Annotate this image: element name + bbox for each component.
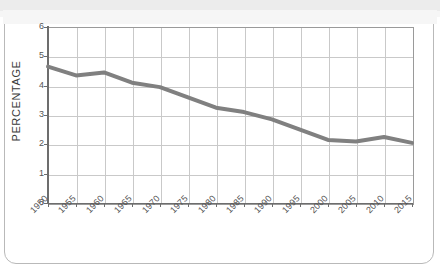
y-tick-mark xyxy=(44,86,48,87)
x-tick-mark xyxy=(188,203,189,207)
x-tick-mark xyxy=(76,203,77,207)
y-tick-mark xyxy=(44,115,48,116)
x-tick-mark xyxy=(244,203,245,207)
y-tick-label: 1 xyxy=(30,169,44,178)
y-tick-mark xyxy=(44,56,48,57)
x-tick-mark xyxy=(356,203,357,207)
y-tick-mark xyxy=(44,27,48,28)
x-tick-mark xyxy=(104,203,105,207)
y-tick-mark xyxy=(44,144,48,145)
y-tick-label: 6 xyxy=(30,22,44,31)
x-tick-mark xyxy=(384,203,385,207)
chart-screenshot: PERCENTAGE 0123456 195019551960196519701… xyxy=(0,0,440,272)
y-tick-label: 3 xyxy=(30,110,44,119)
x-tick-mark xyxy=(412,203,413,207)
y-axis-ticks: 0123456 xyxy=(28,0,44,272)
y-tick-label: 4 xyxy=(30,81,44,90)
y-tick-label: 2 xyxy=(30,139,44,148)
y-tick-mark xyxy=(44,174,48,175)
x-tick-mark xyxy=(160,203,161,207)
y-axis-title: PERCENTAGE xyxy=(10,41,22,161)
x-tick-mark xyxy=(272,203,273,207)
series-line-percentage xyxy=(48,27,412,203)
line-chart: PERCENTAGE 0123456 195019551960196519701… xyxy=(0,0,440,272)
x-tick-mark xyxy=(132,203,133,207)
x-tick-mark xyxy=(300,203,301,207)
y-tick-label: 5 xyxy=(30,51,44,60)
x-tick-mark xyxy=(48,203,49,207)
x-tick-mark xyxy=(328,203,329,207)
y-tick-mark xyxy=(44,203,48,204)
x-tick-mark xyxy=(216,203,217,207)
